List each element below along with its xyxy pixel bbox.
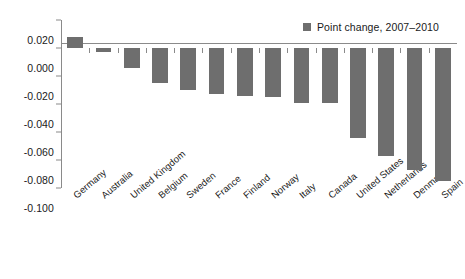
y-axis-tick-mark: [56, 20, 61, 21]
x-axis-tick-mark: [174, 48, 175, 53]
y-axis-tick-label: 0.020: [27, 34, 61, 46]
x-axis-tick-mark: [89, 48, 90, 53]
chart-legend: Point change, 2007–2010: [303, 21, 439, 33]
y-axis-tick-label: -0.020: [24, 90, 61, 102]
bar-united-kingdom: [124, 48, 140, 68]
y-axis-tick-label: 0.000: [27, 62, 61, 74]
y-axis-tick-mark: [56, 76, 61, 77]
bar-netherlands: [378, 48, 394, 156]
legend-swatch-icon: [303, 23, 311, 31]
y-axis-tick-mark: [56, 48, 61, 49]
y-axis-tick-mark: [56, 104, 61, 105]
x-axis-tick-mark: [344, 48, 345, 53]
bar-spain: [435, 48, 451, 181]
x-axis-tick-mark: [259, 48, 260, 53]
x-axis-tick-mark: [316, 48, 317, 53]
y-axis-tick-mark: [56, 160, 61, 161]
bar-united-states: [350, 48, 366, 138]
legend-label: Point change, 2007–2010: [317, 21, 439, 33]
bar-denmark: [407, 48, 423, 170]
bar-belgium: [152, 48, 168, 83]
bar-canada: [322, 48, 338, 103]
y-axis-tick-label: -0.040: [24, 118, 61, 130]
bar-germany: [67, 37, 83, 48]
x-axis-tick-mark: [287, 48, 288, 53]
x-axis-tick-mark: [118, 48, 119, 53]
x-axis-tick-mark: [202, 48, 203, 53]
y-axis-tick-label: -0.080: [24, 174, 61, 186]
x-axis-tick-mark: [400, 48, 401, 53]
x-axis-tick-mark: [146, 48, 147, 53]
bar-australia: [96, 48, 112, 52]
bar-finland: [237, 48, 253, 96]
x-axis-tick-mark: [429, 48, 430, 53]
bar-norway: [265, 48, 281, 97]
y-axis-tick-label: -0.100: [24, 202, 61, 214]
bar-france: [209, 48, 225, 94]
bar-sweden: [180, 48, 196, 90]
y-axis-tick-mark: [56, 188, 61, 189]
bar-italy: [294, 48, 310, 103]
x-axis-tick-mark: [231, 48, 232, 53]
x-axis-tick-mark: [372, 48, 373, 53]
y-axis-tick-mark: [56, 132, 61, 133]
y-axis-tick-label: -0.060: [24, 146, 61, 158]
